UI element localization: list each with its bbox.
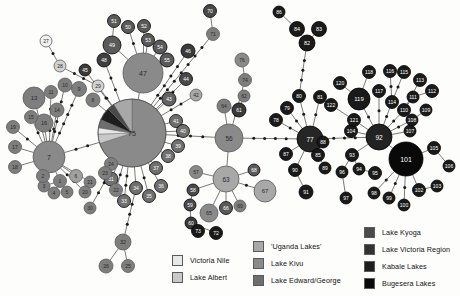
network-node[interactable]: 57: [190, 166, 203, 179]
network-node[interactable]: 56: [215, 124, 243, 152]
network-node[interactable]: 28: [54, 60, 66, 72]
network-node[interactable]: 38: [162, 150, 175, 163]
network-node[interactable]: 8: [86, 93, 100, 107]
network-node[interactable]: 27: [40, 35, 52, 47]
network-node[interactable]: 7: [33, 141, 65, 173]
network-node[interactable]: 10: [58, 78, 72, 92]
network-node[interactable]: 30: [84, 202, 96, 214]
network-node[interactable]: 118: [363, 66, 376, 79]
network-node[interactable]: 20: [79, 186, 91, 198]
network-node[interactable]: 106: [443, 160, 455, 172]
network-node[interactable]: 117: [373, 85, 386, 98]
network-node[interactable]: 103: [431, 180, 443, 192]
network-node[interactable]: 90: [289, 164, 302, 177]
network-node[interactable]: 29: [92, 80, 104, 92]
network-node[interactable]: 40: [177, 125, 190, 138]
network-node[interactable]: 100: [398, 199, 410, 211]
network-node[interactable]: 74: [239, 74, 252, 87]
network-node[interactable]: 50: [122, 21, 135, 34]
network-node[interactable]: 15: [25, 111, 38, 124]
network-node[interactable]: 55: [160, 53, 174, 67]
network-node[interactable]: 92: [366, 124, 392, 150]
network-node[interactable]: 13: [23, 87, 45, 109]
network-node[interactable]: 45: [79, 64, 91, 76]
network-node[interactable]: 112: [426, 85, 439, 98]
network-node[interactable]: 6: [70, 170, 83, 183]
network-node[interactable]: 99: [383, 192, 395, 204]
network-node[interactable]: 114: [386, 96, 399, 109]
network-node[interactable]: 67: [254, 180, 276, 202]
network-node[interactable]: 51: [108, 15, 121, 28]
network-node[interactable]: 72: [210, 227, 223, 240]
network-node[interactable]: 105: [428, 142, 441, 155]
network-node[interactable]: 63: [213, 166, 239, 192]
network-node[interactable]: 42: [190, 89, 202, 101]
network-node[interactable]: 76: [235, 53, 249, 67]
network-node[interactable]: 81: [314, 91, 327, 104]
network-node[interactable]: 96: [336, 166, 348, 178]
network-node[interactable]: 66: [220, 202, 233, 215]
network-node[interactable]: 2: [37, 170, 50, 183]
network-node[interactable]: 86: [273, 6, 285, 18]
network-node[interactable]: 75: [98, 99, 166, 167]
network-node[interactable]: 82: [299, 35, 315, 51]
network-node[interactable]: 119: [348, 88, 370, 110]
network-node[interactable]: 109: [420, 104, 432, 116]
network-node[interactable]: 49: [103, 36, 121, 54]
network-node[interactable]: 33: [118, 195, 131, 208]
network-node[interactable]: 14: [50, 103, 64, 117]
network-node[interactable]: 69: [234, 200, 246, 212]
network-node[interactable]: 70: [204, 5, 217, 18]
network-node[interactable]: 101: [389, 142, 423, 176]
network-node[interactable]: 89: [319, 162, 331, 174]
network-node[interactable]: 111: [407, 91, 419, 103]
network-node[interactable]: 78: [270, 114, 283, 127]
network-node[interactable]: 53: [142, 34, 155, 47]
network-node[interactable]: 23: [99, 167, 112, 180]
network-node[interactable]: 113: [414, 74, 427, 87]
network-node[interactable]: 97: [340, 192, 352, 204]
network-node[interactable]: 43: [162, 92, 176, 106]
network-node[interactable]: 32: [115, 234, 131, 250]
network-node[interactable]: 120: [334, 77, 347, 90]
network-node[interactable]: 37: [150, 162, 163, 175]
network-node[interactable]: 93: [346, 149, 359, 162]
network-node[interactable]: 54: [153, 40, 167, 54]
network-node[interactable]: 122: [325, 99, 338, 112]
network-node[interactable]: 59: [184, 199, 196, 211]
network-node[interactable]: 88: [317, 136, 329, 148]
network-node[interactable]: 98: [368, 187, 380, 199]
network-node[interactable]: 102: [413, 184, 426, 197]
network-node[interactable]: 34: [130, 182, 143, 195]
network-node[interactable]: 64: [217, 99, 231, 113]
network-node[interactable]: 36: [155, 180, 168, 193]
network-node[interactable]: 95: [369, 167, 382, 180]
network-node[interactable]: 87: [280, 148, 293, 161]
network-node[interactable]: 110: [398, 104, 411, 117]
network-node[interactable]: 107: [404, 125, 416, 137]
network-node[interactable]: 26: [99, 259, 113, 273]
network-node[interactable]: 35: [143, 190, 156, 203]
network-node[interactable]: 19: [7, 121, 20, 134]
network-node[interactable]: 79: [281, 102, 294, 115]
network-node[interactable]: 47: [123, 53, 163, 93]
network-node[interactable]: 121: [348, 114, 361, 127]
network-node[interactable]: 71: [207, 28, 220, 41]
network-node[interactable]: 68: [248, 164, 260, 176]
network-node[interactable]: 46: [181, 44, 195, 58]
network-node[interactable]: 83: [312, 22, 327, 37]
network-node[interactable]: 48: [97, 53, 111, 67]
network-node[interactable]: 4: [48, 187, 60, 199]
network-node[interactable]: 108: [406, 114, 418, 126]
network-node[interactable]: 91: [299, 185, 313, 199]
network-node[interactable]: 5: [61, 186, 73, 198]
network-node[interactable]: 85: [312, 149, 325, 162]
network-node[interactable]: 80: [293, 90, 306, 103]
network-node[interactable]: 58: [187, 184, 199, 196]
network-node[interactable]: 39: [172, 140, 185, 153]
network-node[interactable]: 17: [9, 141, 22, 154]
network-node[interactable]: 11: [45, 86, 58, 99]
network-node[interactable]: 18: [9, 161, 22, 174]
network-node[interactable]: 73: [192, 225, 205, 238]
network-node[interactable]: 1: [54, 175, 67, 188]
